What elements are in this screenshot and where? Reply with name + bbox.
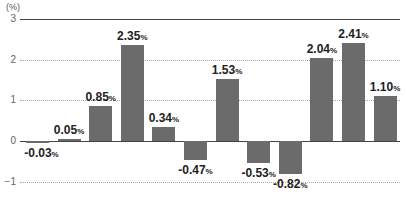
bar (152, 127, 175, 141)
value-label: 2.41% (338, 27, 368, 41)
bar (279, 141, 302, 174)
y-tick-label: 2 (0, 55, 16, 65)
value-label: 1.53% (212, 63, 242, 77)
bar (374, 96, 397, 141)
y-tick-label: 3 (0, 14, 16, 24)
value-label: 0.34% (149, 111, 179, 125)
bar (121, 45, 144, 141)
value-label: -0.53% (241, 166, 275, 180)
value-label: 1.10% (370, 80, 400, 94)
y-axis-unit: (%) (6, 2, 20, 12)
y-tick-label: 0 (0, 136, 16, 146)
bar (184, 141, 207, 160)
bar (26, 141, 49, 143)
value-label: 0.85% (85, 90, 115, 104)
bar (342, 43, 365, 141)
gridline (20, 141, 400, 142)
y-tick-label: 1 (0, 95, 16, 105)
bar (58, 139, 81, 141)
gridline (20, 182, 400, 183)
gridline (20, 19, 400, 20)
value-label: -0.82% (273, 177, 307, 191)
bar (310, 58, 333, 141)
bar (89, 106, 112, 141)
bar (247, 141, 270, 163)
y-tick-label: −1 (0, 177, 16, 187)
value-label: 0.05% (54, 123, 84, 137)
value-label: 2.35% (117, 29, 147, 43)
value-label: 2.04% (307, 42, 337, 56)
bar (216, 79, 239, 141)
value-label: -0.47% (178, 163, 212, 177)
value-label: -0.03% (24, 146, 58, 160)
